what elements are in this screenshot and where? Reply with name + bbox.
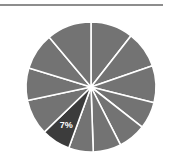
pie-chart-svg: 7% — [0, 0, 174, 166]
pie-chart-figure: 7% — [0, 0, 174, 166]
pie-label-group: 7% — [60, 120, 73, 130]
chart-plot-area: 7% — [0, 0, 174, 166]
pie-slice-data-label: 7% — [60, 120, 73, 130]
pie-slice-group — [26, 22, 156, 152]
